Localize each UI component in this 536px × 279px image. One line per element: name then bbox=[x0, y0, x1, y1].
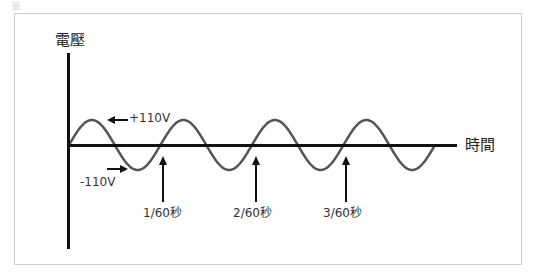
marker-arrow-icon-1 bbox=[159, 156, 167, 202]
marker-arrow-icon-2 bbox=[252, 156, 260, 202]
y-axis-label: 電壓 bbox=[55, 33, 85, 48]
time-marker-label-3: 3/60秒 bbox=[323, 207, 362, 219]
trough-arrow-icon bbox=[107, 165, 128, 173]
time-marker-label-1: 1/60秒 bbox=[143, 207, 182, 219]
time-marker-label-2: 2/60秒 bbox=[233, 207, 272, 219]
trough-voltage-label: -110V bbox=[80, 176, 115, 188]
peak-voltage-label: +110V bbox=[129, 112, 170, 124]
marker-arrow-icon-3 bbox=[342, 156, 350, 202]
peak-arrow-icon bbox=[107, 116, 128, 124]
x-axis-label: 時間 bbox=[465, 138, 495, 153]
